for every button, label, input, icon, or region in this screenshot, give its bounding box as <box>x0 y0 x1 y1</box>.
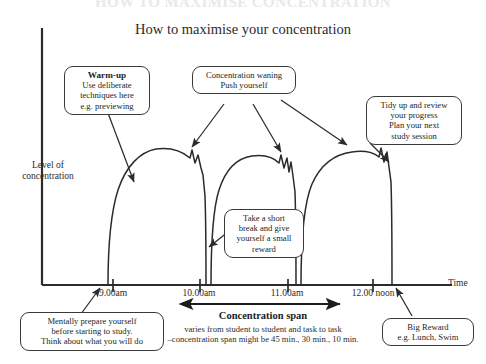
x-tick-label-10am: 10.00am <box>164 288 234 298</box>
arrow-waning-2 <box>253 104 281 152</box>
callout-warm-up-title: Warm-up <box>88 70 126 80</box>
callout-break-line-1: Take a short <box>230 213 298 223</box>
diagram-canvas: HOW TO MAXIMISE CONCENTRATION How to max… <box>0 0 486 364</box>
arrow-warmup <box>108 113 134 182</box>
concentration-span-note-line-2: –concentration span might be 45 min., 30… <box>113 334 413 344</box>
x-tick-label-11am: 11.00am <box>252 288 322 298</box>
y-axis-label-line-1: Level of <box>6 160 90 171</box>
callout-break-line-3: yourself a small <box>230 233 298 243</box>
callout-warm-up-line-3: e.g. previewing <box>70 101 144 111</box>
callout-tidy-up-line-3: Plan your next <box>372 120 456 130</box>
concentration-span-title: Concentration span <box>133 310 393 321</box>
y-axis-label-line-2: concentration <box>6 171 90 182</box>
concentration-span-note: varies from student to student and task … <box>113 324 413 345</box>
callout-waning-line-2: Push yourself <box>198 80 290 90</box>
x-tick-label-9am: 9.00am <box>78 288 148 298</box>
callout-break-line-2: break and give <box>230 223 298 233</box>
callout-tidy-up-line-2: your progress <box>372 110 456 120</box>
callout-tidy-up-line-1: Tidy up and review <box>372 100 456 110</box>
x-tick-label-12noon: 12.00 noon <box>338 288 408 298</box>
callout-concentration-waning: Concentration waning Push yourself <box>192 66 296 94</box>
y-axis-label: Level of concentration <box>6 160 90 182</box>
arrow-waning-3 <box>281 100 347 145</box>
callout-warm-up-line-1: Use deliberate <box>70 80 144 90</box>
callout-tidy-up-line-4: study session <box>372 131 456 141</box>
callout-take-a-break: Take a short break and give yourself a s… <box>224 209 304 258</box>
callout-waning-line-1: Concentration waning <box>198 70 290 80</box>
callout-break-line-4: reward <box>230 244 298 254</box>
x-axis-label: Time <box>448 278 468 288</box>
callout-tidy-up: Tidy up and review your progress Plan yo… <box>366 96 462 145</box>
concentration-span-note-line-1: varies from student to student and task … <box>113 324 413 334</box>
callout-warm-up-line-2: techniques here <box>70 90 144 100</box>
callout-warm-up: Warm-up Use deliberate techniques here e… <box>64 66 150 115</box>
arrow-waning-1 <box>192 104 224 147</box>
